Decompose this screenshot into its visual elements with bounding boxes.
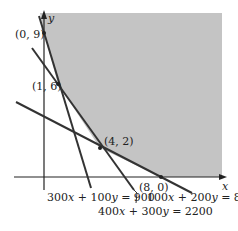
y-axis-label: y xyxy=(47,12,55,25)
point-label-4-2: (4, 2) xyxy=(104,135,134,148)
line-label-300x: 300x + 100y = 900 xyxy=(47,191,155,204)
feasible-region xyxy=(40,13,222,177)
feasible-region-graph: y x (0, 9) (1, 6) (4, 2) (8, 0) 300x + 1… xyxy=(0,0,238,231)
line-label-400x: 400x + 300y = 2200 xyxy=(98,205,213,218)
point-label-0-9: (0, 9) xyxy=(15,28,45,41)
vertex-4-2 xyxy=(98,146,102,150)
line-label-100x: 100x + 200y = 800 xyxy=(147,191,238,204)
point-label-1-6: (1, 6) xyxy=(32,80,62,93)
vertex-8-0 xyxy=(159,175,163,179)
